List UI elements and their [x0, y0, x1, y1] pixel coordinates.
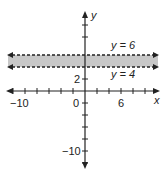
y-tick-label-2: 2: [74, 73, 80, 85]
origin-label: 0: [73, 97, 79, 109]
x-axis-label: x: [153, 94, 160, 106]
y-axis-up-arrow-icon: [82, 11, 88, 18]
shaded-region: [8, 55, 158, 67]
line-label-y4: y = 4: [110, 68, 135, 80]
x-axis-left-arrow-icon: [6, 88, 13, 94]
y-axis-label: y: [90, 9, 98, 21]
line-label-y6: y = 6: [110, 39, 136, 51]
graph-canvas: y x y = 6 y = 4 −10 0 6 2 −10: [0, 0, 162, 175]
coordinate-plane-diagram: y x y = 6 y = 4 −10 0 6 2 −10: [0, 0, 162, 175]
x-tick-label-neg10: −10: [10, 97, 29, 109]
y-tick-label-neg10: −10: [62, 145, 81, 157]
x-tick-label-6: 6: [118, 97, 124, 109]
